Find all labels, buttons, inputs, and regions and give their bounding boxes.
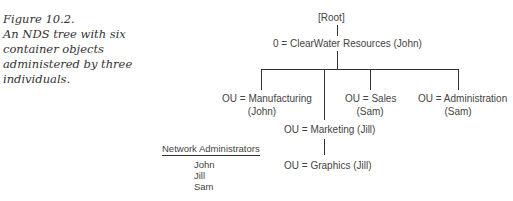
caption-line: individuals. [3, 72, 153, 87]
ou-graphics-node: OU = Graphics (Jill) [284, 159, 364, 172]
ou-label: OU = Manufacturing [222, 92, 302, 105]
ou-manufacturing-node: OU = Manufacturing (John) [222, 92, 302, 118]
caption-line: An NDS tree with six [3, 27, 153, 42]
administrators-title: Network Administrators [162, 143, 260, 156]
connector-line [370, 69, 371, 90]
connector-line [324, 69, 325, 120]
ou-label: OU = Administration [418, 92, 498, 105]
connector-line [261, 69, 459, 70]
connector-line [337, 51, 338, 69]
administrator-name: John [194, 159, 260, 170]
ou-admin: (John) [222, 105, 302, 118]
administrator-name: Jill [194, 170, 260, 181]
connector-line [337, 25, 338, 36]
caption-line: container objects [3, 42, 153, 57]
figure-number: Figure 10.2. [3, 12, 153, 27]
root-node: [Root] [318, 11, 345, 24]
organization-node: 0 = ClearWater Resources (John) [273, 37, 422, 50]
ou-sales-node: OU = Sales (Sam) [345, 92, 395, 118]
administrators-legend: Network Administrators John Jill Sam [162, 143, 260, 192]
figure-caption: Figure 10.2. An NDS tree with six contai… [3, 12, 153, 87]
ou-admin: (Sam) [418, 105, 498, 118]
connector-line [324, 139, 325, 155]
caption-line: administered by three [3, 57, 153, 72]
ou-label: OU = Sales [345, 92, 395, 105]
ou-admin: (Sam) [345, 105, 395, 118]
ou-marketing-node: OU = Marketing (Jill) [284, 123, 364, 136]
connector-line [458, 69, 459, 90]
administrator-name: Sam [194, 181, 260, 192]
ou-administration-node: OU = Administration (Sam) [418, 92, 498, 118]
connector-line [261, 69, 262, 90]
